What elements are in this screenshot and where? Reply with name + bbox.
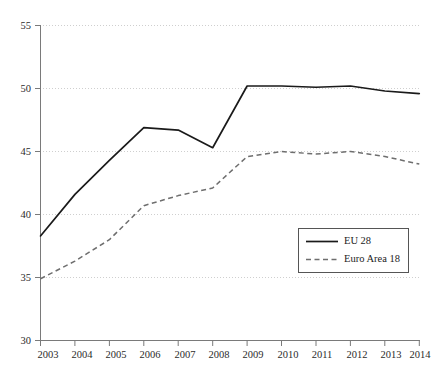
legend-label-eu-28: EU 28	[344, 235, 371, 246]
x-axis: 2003 2004 2005 2006 2007 2008 2009 2010 …	[38, 341, 432, 361]
x-tick-label-2008: 2008	[209, 349, 230, 360]
x-tick-label-2014: 2014	[410, 349, 432, 360]
y-tick-label-45: 45	[21, 146, 32, 157]
x-tick-label-2012: 2012	[347, 349, 368, 360]
x-tick-label-2005: 2005	[106, 349, 127, 360]
line-chart: 55 50 45 40 35 30 2003 2004 2005 2006	[0, 0, 434, 373]
x-tick-label-2010: 2010	[278, 349, 299, 360]
y-tick-label-50: 50	[21, 83, 32, 94]
y-tick-label-30: 30	[21, 335, 32, 346]
legend-label-euro-area-18: Euro Area 18	[344, 253, 400, 264]
legend: EU 28 Euro Area 18	[299, 229, 409, 273]
x-tick-label-2011: 2011	[312, 349, 333, 360]
x-tick-label-2007: 2007	[175, 349, 196, 360]
x-tick-label-2013: 2013	[381, 349, 402, 360]
series-line-eu-28	[41, 86, 420, 236]
x-tick-label-2004: 2004	[72, 349, 94, 360]
y-tick-label-35: 35	[21, 272, 32, 283]
y-axis: 55 50 45 40 35 30	[21, 20, 41, 346]
y-tick-label-40: 40	[21, 209, 32, 220]
x-tick-label-2009: 2009	[243, 349, 264, 360]
chart-canvas: 55 50 45 40 35 30 2003 2004 2005 2006	[0, 0, 434, 373]
x-tick-label-2006: 2006	[140, 349, 161, 360]
gridlines	[40, 26, 420, 341]
x-tick-label-2003: 2003	[38, 349, 59, 360]
y-tick-label-55: 55	[21, 20, 32, 31]
